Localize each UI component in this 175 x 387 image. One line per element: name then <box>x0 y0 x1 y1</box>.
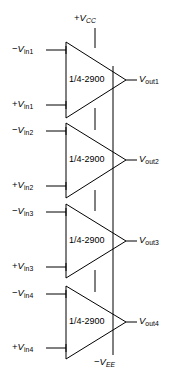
schematic-canvas <box>0 0 175 387</box>
amp4-inverting-input-label: −Vin4 <box>12 288 33 298</box>
amp2-noninverting-input-label: +Vin2 <box>12 180 33 190</box>
amp4-noninverting-subscript: in4 <box>24 346 33 353</box>
amp4-chip-label: 1/4-2900 <box>69 317 105 326</box>
amp2-output-label: Vout2 <box>139 154 159 164</box>
amp2-inverting-symbol: V <box>18 124 24 135</box>
amp1-noninverting-subscript: in1 <box>24 103 33 110</box>
amp4-output-label: Vout4 <box>139 316 159 326</box>
amp3-output-label: Vout3 <box>139 235 159 245</box>
amp3-noninverting-symbol: V <box>18 260 24 271</box>
vcc-label: +VCC <box>74 13 96 23</box>
amp2-noninverting-symbol: V <box>18 179 24 190</box>
amp1-inverting-symbol: V <box>18 43 24 54</box>
amp2-noninverting-subscript: in2 <box>24 184 33 191</box>
amp1-inverting-input-label: −Vin1 <box>12 44 33 54</box>
amp3-noninverting-input-label: +Vin3 <box>12 261 33 271</box>
amp1-chip-label: 1/4-2900 <box>69 75 105 84</box>
amp3-output-subscript: out3 <box>145 239 159 246</box>
amp4-noninverting-symbol: V <box>18 341 24 352</box>
amp3-inverting-subscript: in3 <box>24 210 33 217</box>
amp1-noninverting-input-label: +Vin1 <box>12 99 33 109</box>
amp1-output-label: Vout1 <box>139 74 159 84</box>
amp1-inverting-subscript: in1 <box>24 48 33 55</box>
amp2-inverting-input-label: −Vin2 <box>12 125 33 135</box>
amp3-chip-label: 1/4-2900 <box>69 236 105 245</box>
amp3-noninverting-subscript: in3 <box>24 265 33 272</box>
amp1-output-subscript: out1 <box>145 78 159 85</box>
amp2-inverting-subscript: in2 <box>24 129 33 136</box>
amp1-noninverting-symbol: V <box>18 98 24 109</box>
schematic-diagram: +VCC −VEE −Vin1 +Vin1 1/4-2900 Vout1 −Vi… <box>0 0 175 387</box>
amp4-inverting-subscript: in4 <box>24 292 33 299</box>
vee-symbol: V <box>100 356 106 367</box>
amp4-noninverting-input-label: +Vin4 <box>12 342 33 352</box>
vee-label: −VEE <box>94 357 115 367</box>
amp4-inverting-symbol: V <box>18 287 24 298</box>
amp2-output-subscript: out2 <box>145 158 159 165</box>
vcc-subscript: CC <box>86 17 96 24</box>
amp3-inverting-input-label: −Vin3 <box>12 206 33 216</box>
vcc-symbol: V <box>80 12 86 23</box>
amp2-chip-label: 1/4-2900 <box>69 155 105 164</box>
amp3-inverting-symbol: V <box>18 205 24 216</box>
amp4-output-subscript: out4 <box>145 320 159 327</box>
vee-subscript: EE <box>106 361 115 368</box>
